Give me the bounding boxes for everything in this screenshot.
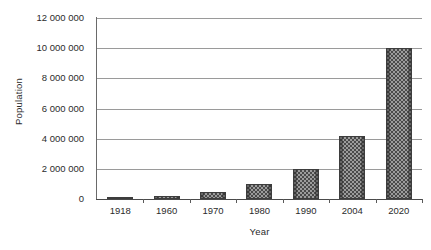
bar[interactable]	[339, 136, 365, 199]
y-axis-tick-label: 6 000 000	[42, 104, 84, 114]
x-axis-title: Year	[97, 226, 422, 237]
bar[interactable]	[200, 192, 226, 199]
y-axis-tick-label: 2 000 000	[42, 164, 84, 174]
y-axis-tick-label: 12 000 000	[36, 13, 84, 23]
bar-slot	[283, 18, 329, 199]
bar-slot	[236, 18, 282, 199]
x-axis-tick-label: 1970	[202, 205, 223, 216]
x-axis-tick-label: 1960	[156, 205, 177, 216]
bar-slot	[143, 18, 189, 199]
bar-edge-right	[176, 197, 179, 198]
bar-slot	[376, 18, 422, 199]
x-axis-tick	[143, 199, 144, 203]
x-axis-tick	[236, 199, 237, 203]
bar-edge-right	[268, 185, 271, 198]
x-axis-tick-label: 2004	[342, 205, 363, 216]
x-axis-tick-label: 1980	[249, 205, 270, 216]
bar[interactable]	[246, 184, 272, 199]
x-axis-tick-labels: 1918196019701980199020042020	[97, 205, 422, 221]
y-axis-tick-label: 4 000 000	[42, 134, 84, 144]
bar-edge-right	[222, 193, 225, 198]
y-axis-tick-label: 8 000 000	[42, 74, 84, 84]
y-axis-tick-label: 0	[79, 194, 84, 204]
plot-area	[97, 18, 422, 199]
bar-edge-right	[315, 170, 318, 198]
bar-edge-left	[340, 137, 343, 198]
bar-edge-left	[155, 197, 158, 198]
bar-edge-left	[201, 193, 204, 198]
bars-layer	[97, 18, 422, 199]
bar[interactable]	[293, 169, 319, 199]
bar-slot	[190, 18, 236, 199]
x-axis-tick-label: 2020	[388, 205, 409, 216]
x-axis-tick	[422, 199, 423, 203]
bar-edge-left	[387, 49, 390, 198]
bar-slot	[97, 18, 143, 199]
x-axis-tick-label: 1918	[110, 205, 131, 216]
x-axis-ticks	[97, 199, 422, 204]
bar-edge-left	[247, 185, 250, 198]
y-axis-tick-labels: 02 000 0004 000 0006 000 0008 000 00010 …	[0, 0, 92, 250]
x-axis-tick	[329, 199, 330, 203]
x-axis-tick	[283, 199, 284, 203]
bar-edge-right	[361, 137, 364, 198]
x-axis-tick-label: 1990	[295, 205, 316, 216]
bar-edge-right	[408, 49, 411, 198]
x-axis-tick	[190, 199, 191, 203]
x-axis-tick	[376, 199, 377, 203]
bar-slot	[329, 18, 375, 199]
bar-edge-left	[294, 170, 297, 198]
bar[interactable]	[386, 48, 412, 199]
y-axis-tick-label: 10 000 000	[36, 43, 84, 53]
population-bar-chart: Population 02 000 0004 000 0006 000 0008…	[0, 0, 431, 250]
